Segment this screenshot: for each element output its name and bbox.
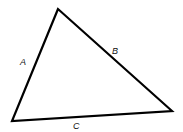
label-side-c: C	[73, 121, 80, 131]
triangle	[12, 9, 172, 121]
label-side-b: B	[112, 46, 118, 56]
label-side-a: A	[19, 57, 26, 67]
triangle-diagram: A B C	[0, 0, 183, 132]
